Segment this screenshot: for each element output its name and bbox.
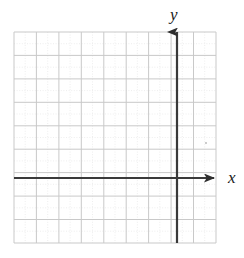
minor-gridlines: [14, 32, 216, 243]
x-axis-label: x: [228, 169, 236, 186]
graph-svg: [0, 0, 244, 258]
speck-mark: [205, 142, 207, 144]
y-axis-label: y: [170, 6, 178, 23]
coordinate-plane-figure: y x: [0, 0, 244, 258]
